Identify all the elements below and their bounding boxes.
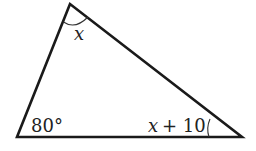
bottom-left-angle-label: 80°	[31, 115, 63, 136]
bottom-right-angle-var: x	[148, 115, 158, 136]
bottom-right-angle-arc	[208, 119, 210, 137]
top-angle-label: x	[74, 23, 84, 44]
bottom-right-angle-rest: + 10	[162, 115, 206, 136]
triangle-diagram: x 80° x + 10	[0, 0, 256, 151]
